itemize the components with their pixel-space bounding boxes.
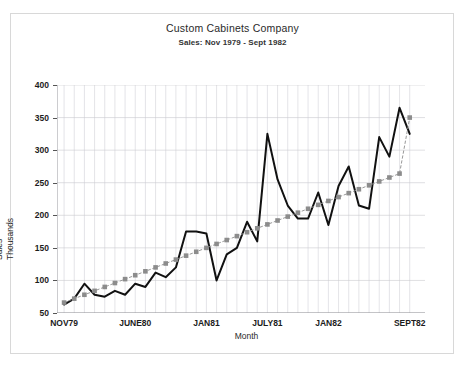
y-tick-label: 150 <box>35 243 49 253</box>
x-tick-label: JULY81 <box>252 318 282 328</box>
x-tick-label: SEPT82 <box>394 318 426 328</box>
x-tick-label: JAN81 <box>193 318 219 328</box>
x-axis-title: Month <box>0 331 465 341</box>
y-axis-title-line-2: Thousands <box>5 218 15 260</box>
x-tick-label: JAN82 <box>315 318 341 328</box>
y-tick-label: 250 <box>35 178 49 188</box>
y-tick-label: 200 <box>35 210 49 220</box>
x-tick-label: JUNE80 <box>119 318 151 328</box>
y-tick-mark <box>53 313 57 314</box>
x-tick-label: NOV79 <box>50 318 78 328</box>
y-tick-label: 350 <box>35 113 49 123</box>
chart-canvas <box>57 85 425 313</box>
chart-title: Custom Cabinets Company <box>0 22 465 34</box>
x-axis-title-text: Month <box>235 331 259 341</box>
y-axis-title: Sales Thousands <box>4 150 26 260</box>
y-tick-label: 100 <box>35 275 49 285</box>
y-tick-label: 50 <box>40 308 49 318</box>
y-axis-title-line-1: Sales <box>0 239 4 260</box>
chart-subtitle: Sales: Nov 1979 - Sept 1982 <box>0 38 465 47</box>
y-tick-label: 400 <box>35 80 49 90</box>
y-tick-label: 300 <box>35 145 49 155</box>
plot-area <box>57 85 425 313</box>
